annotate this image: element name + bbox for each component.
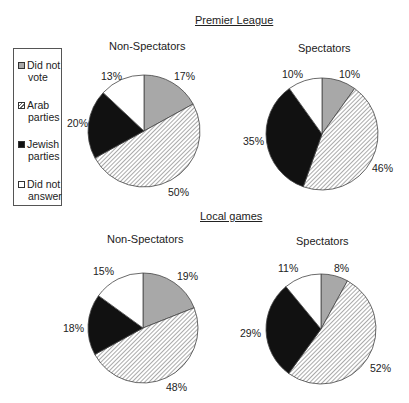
pie-premier-non-spectators <box>88 75 200 187</box>
pct-label: 18% <box>63 322 84 334</box>
hatched-swatch-icon <box>18 102 25 109</box>
pct-label: 29% <box>240 327 261 339</box>
pct-label: 15% <box>93 265 114 277</box>
pct-label: 8% <box>334 262 349 274</box>
black-swatch-icon <box>18 141 25 148</box>
pct-label: 52% <box>370 362 391 374</box>
pct-label: 13% <box>101 70 122 82</box>
white-swatch-icon <box>18 181 25 188</box>
pct-label: 50% <box>168 186 189 198</box>
pie-premier-spectators <box>266 78 378 190</box>
pct-label: 11% <box>278 262 298 274</box>
legend-item-arab-parties: Arab parties <box>18 99 60 123</box>
pie-local-spectators <box>266 274 376 384</box>
pct-label: 46% <box>372 162 393 174</box>
premier-league-title: Premier League <box>195 14 273 26</box>
legend-item-jewish-parties: Jewish parties <box>18 138 60 162</box>
pct-label: 20% <box>67 117 88 129</box>
pct-label: 10% <box>282 68 303 80</box>
pct-label: 19% <box>177 270 198 282</box>
pl-spectators-title: Spectators <box>298 42 351 54</box>
pie-local-non-spectators <box>88 273 198 383</box>
pct-label: 48% <box>166 381 187 393</box>
local-games-title: Local games <box>200 210 262 222</box>
pct-label: 10% <box>339 68 360 80</box>
pl-non-spectators-title: Non-Spectators <box>109 40 185 52</box>
gray-swatch-icon <box>18 62 25 69</box>
legend-item-did-not-answer: Did not answer <box>18 178 62 202</box>
lg-spectators-title: Spectators <box>296 235 349 247</box>
pct-label: 17% <box>174 70 195 82</box>
pct-label: 35% <box>243 135 264 147</box>
lg-non-spectators-title: Non-Spectators <box>107 233 183 245</box>
legend-item-did-not-vote: Did not vote <box>18 59 60 83</box>
legend: Did not vote Arab parties Jewish parties… <box>13 48 62 206</box>
